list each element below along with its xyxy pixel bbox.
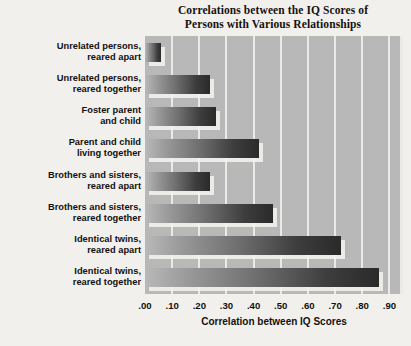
- bar-row: [145, 139, 403, 158]
- x-axis-tick-label: .00: [130, 300, 160, 311]
- x-axis-tick-label: .40: [239, 300, 269, 311]
- category-label-line: reared together: [3, 277, 141, 288]
- chart-title-line-2: Persons with Various Relationships: [142, 18, 404, 32]
- x-axis-tick-label: .20: [184, 300, 214, 311]
- bar-row: [145, 268, 403, 287]
- x-axis-tick-label: .30: [211, 300, 241, 311]
- category-label: Foster parentand child: [3, 105, 141, 127]
- category-labels: Unrelated persons,reared apartUnrelated …: [0, 36, 141, 294]
- bar-row: [145, 236, 403, 255]
- chart-title: Correlations between the IQ Scores of Pe…: [142, 4, 404, 31]
- plot-area: [145, 36, 403, 294]
- bar[interactable]: [145, 43, 161, 62]
- x-axis-tick-label: .60: [293, 300, 323, 311]
- chart-screenshot: Correlations between the IQ Scores of Pe…: [0, 0, 411, 346]
- x-axis-tick-label: .50: [266, 300, 296, 311]
- category-label-line: Identical twins,: [3, 266, 141, 277]
- category-label-line: Parent and child: [3, 137, 141, 148]
- category-label: Identical twins,reared apart: [3, 234, 141, 256]
- x-axis-tick-label: .90: [374, 300, 404, 311]
- chart-title-line-1: Correlations between the IQ Scores of: [142, 4, 404, 18]
- x-axis-tick-labels: .00.10.20.30.40.50.60.70.80.90: [145, 300, 403, 314]
- bar[interactable]: [145, 268, 379, 287]
- x-axis-title: Correlation between IQ Scores: [145, 316, 403, 327]
- bar-row: [145, 107, 403, 126]
- bar-row: [145, 172, 403, 191]
- bar-row: [145, 43, 403, 62]
- category-label-line: and child: [3, 116, 141, 127]
- category-label-line: Unrelated persons,: [3, 73, 141, 84]
- bar-row: [145, 204, 403, 223]
- category-label-line: reared apart: [3, 52, 141, 63]
- category-label-line: Brothers and sisters,: [3, 170, 141, 181]
- category-label-line: Unrelated persons,: [3, 41, 141, 52]
- category-label: Parent and childliving together: [3, 137, 141, 159]
- bar-row: [145, 75, 403, 94]
- bar[interactable]: [145, 139, 259, 158]
- bar[interactable]: [145, 236, 341, 255]
- x-axis-tick-label: .10: [157, 300, 187, 311]
- bar[interactable]: [145, 172, 210, 191]
- category-label-line: Brothers and sisters,: [3, 202, 141, 213]
- x-axis-tick-label: .80: [347, 300, 377, 311]
- x-axis-tick-label: .70: [320, 300, 350, 311]
- category-label: Identical twins,reared together: [3, 266, 141, 288]
- category-label-line: reared apart: [3, 245, 141, 256]
- category-label: Unrelated persons,reared together: [3, 73, 141, 95]
- category-label-line: Identical twins,: [3, 234, 141, 245]
- category-label-line: reared apart: [3, 181, 141, 192]
- category-label: Brothers and sisters,reared apart: [3, 170, 141, 192]
- category-label-line: Foster parent: [3, 105, 141, 116]
- bar[interactable]: [145, 107, 216, 126]
- category-label-line: living together: [3, 148, 141, 159]
- bar[interactable]: [145, 204, 273, 223]
- category-label-line: reared together: [3, 84, 141, 95]
- category-label: Brothers and sisters,reared together: [3, 202, 141, 224]
- category-label-line: reared together: [3, 213, 141, 224]
- bar[interactable]: [145, 75, 210, 94]
- category-label: Unrelated persons,reared apart: [3, 41, 141, 63]
